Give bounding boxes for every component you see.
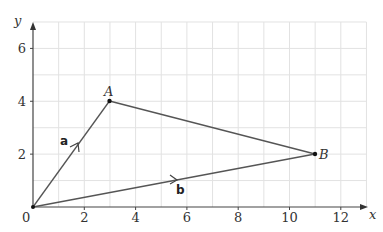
vector-diagram: 24681012 246 x y 0 A B a b — [0, 0, 383, 232]
origin-label: 0 — [22, 210, 30, 225]
grid — [33, 22, 366, 207]
y-tick-label: 4 — [18, 94, 26, 109]
coordinate-plane: 24681012 246 x y 0 A B a b — [0, 0, 383, 232]
vector-a-arrow-icon — [70, 143, 79, 152]
y-axis-label: y — [13, 13, 22, 28]
x-tick-label: 4 — [131, 210, 139, 225]
point-b-label: B — [318, 147, 329, 162]
x-tick-label: 6 — [183, 210, 191, 225]
vector-b-label: b — [176, 183, 185, 197]
point-a-marker — [107, 99, 111, 103]
y-axis-arrow-icon — [30, 22, 36, 30]
y-tick-label: 6 — [18, 41, 26, 56]
x-tick-label: 10 — [281, 210, 298, 225]
x-tick-label: 12 — [333, 210, 350, 225]
y-tick-labels: 246 — [18, 41, 33, 162]
point-b-marker — [313, 152, 317, 156]
x-tick-label: 2 — [80, 210, 88, 225]
point-a-label: A — [103, 84, 113, 99]
origin-marker — [31, 205, 35, 209]
x-tick-label: 8 — [234, 210, 242, 225]
y-tick-label: 2 — [18, 147, 26, 162]
vector-a-label: a — [60, 134, 68, 148]
x-tick-labels: 24681012 — [80, 207, 349, 225]
x-axis-label: x — [369, 207, 377, 222]
